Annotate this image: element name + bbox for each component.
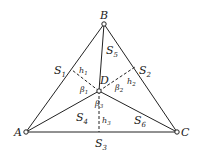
point-b xyxy=(102,22,106,26)
label-beta1: β1 xyxy=(79,85,88,95)
label-s3: S3 xyxy=(95,137,108,152)
segment-da xyxy=(26,91,99,132)
label-beta3: β3 xyxy=(94,99,104,109)
label-c: C xyxy=(181,126,190,139)
point-a xyxy=(24,130,28,134)
label-s5: S5 xyxy=(106,44,119,59)
label-b: B xyxy=(99,9,108,22)
label-s1: S1 xyxy=(54,64,66,79)
label-h1: h1 xyxy=(79,66,88,76)
label-beta2: β2 xyxy=(114,83,124,93)
point-d xyxy=(97,89,101,93)
label-a: A xyxy=(13,126,22,139)
triangle-diagram: B A C D S1 S2 S3 S4 S5 S6 h1 h2 h3 β1 β2… xyxy=(0,0,203,162)
label-s6: S6 xyxy=(134,114,147,129)
point-c xyxy=(175,130,179,134)
label-s4: S4 xyxy=(76,111,88,126)
label-s2: S2 xyxy=(139,64,152,79)
label-h3: h3 xyxy=(102,116,111,126)
label-d: D xyxy=(99,74,109,87)
label-h2: h2 xyxy=(127,77,136,87)
